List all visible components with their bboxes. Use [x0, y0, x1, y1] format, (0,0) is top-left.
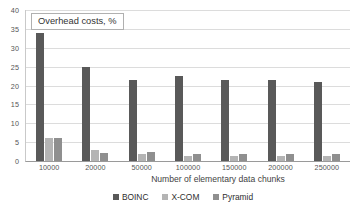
y-axis-tick-label: 25: [11, 62, 19, 71]
bar-group: [26, 10, 72, 161]
bar: [268, 80, 276, 161]
bar-group: [211, 10, 257, 161]
legend-label: Pyramid: [222, 192, 253, 202]
bar: [82, 67, 90, 161]
bar-group: [119, 10, 165, 161]
legend-item[interactable]: X-COM: [162, 192, 199, 202]
bar: [129, 80, 137, 161]
y-axis-tick-label: 0: [15, 157, 19, 166]
y-axis-tick-label: 35: [11, 24, 19, 33]
bar: [147, 152, 155, 161]
bars-layer: [26, 10, 350, 161]
y-axis-tick-label: 30: [11, 43, 19, 52]
bar: [323, 156, 331, 161]
bar: [54, 138, 62, 161]
bar-group: [165, 10, 211, 161]
legend-swatch-icon: [162, 194, 168, 200]
bar: [184, 156, 192, 161]
y-axis-tick-label: 20: [11, 81, 19, 90]
y-axis-tick-label: 40: [11, 6, 19, 15]
bar: [36, 33, 44, 161]
bar: [332, 154, 340, 161]
bar: [100, 153, 108, 161]
y-axis-tick-label: 10: [11, 119, 19, 128]
bar: [239, 154, 247, 161]
bar: [45, 138, 53, 161]
legend-swatch-icon: [213, 194, 219, 200]
bar: [230, 156, 238, 161]
bar: [277, 156, 285, 161]
bar: [314, 82, 322, 161]
legend-label: BOINC: [122, 192, 149, 202]
legend-item[interactable]: BOINC: [113, 192, 149, 202]
bar-group: [257, 10, 303, 161]
x-axis-title: Number of elementary data chunks: [0, 174, 356, 184]
legend-label: X-COM: [171, 192, 199, 202]
bar: [91, 150, 99, 161]
bar-chart: 0510152025303540 Overhead costs, % 10000…: [0, 0, 356, 211]
y-axis: 0510152025303540: [0, 10, 22, 162]
bar-group: [72, 10, 118, 161]
bar: [193, 154, 201, 161]
bar: [286, 154, 294, 161]
bar: [221, 80, 229, 161]
legend-swatch-icon: [113, 194, 119, 200]
bar: [175, 76, 183, 161]
legend: BOINCX-COMPyramid: [0, 192, 356, 202]
y-axis-tick-label: 5: [15, 138, 19, 147]
legend-item[interactable]: Pyramid: [213, 192, 253, 202]
bar: [138, 154, 146, 161]
bar-group: [304, 10, 350, 161]
y-axis-tick-label: 15: [11, 100, 19, 109]
chart-title: Overhead costs, %: [31, 13, 124, 30]
